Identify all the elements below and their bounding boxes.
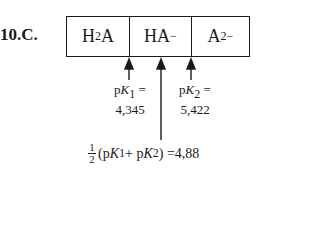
one-half-fraction: 12	[88, 142, 96, 165]
average-value: 4,88	[175, 146, 200, 162]
average-pk-formula: 12 (pK1 + pK2) = 4,88	[88, 142, 199, 165]
pk1-value: 4,345	[103, 102, 157, 117]
pk2-annotation: pK2 = 5,422	[170, 82, 220, 117]
pk1-annotation: pK1 = 4,345	[103, 82, 157, 117]
arrow-midpoint-head-icon	[157, 59, 165, 69]
pk2-value: 5,422	[170, 102, 220, 117]
arrow-pk2-head-icon	[187, 59, 195, 69]
arrow-pk1-head-icon	[125, 59, 133, 69]
